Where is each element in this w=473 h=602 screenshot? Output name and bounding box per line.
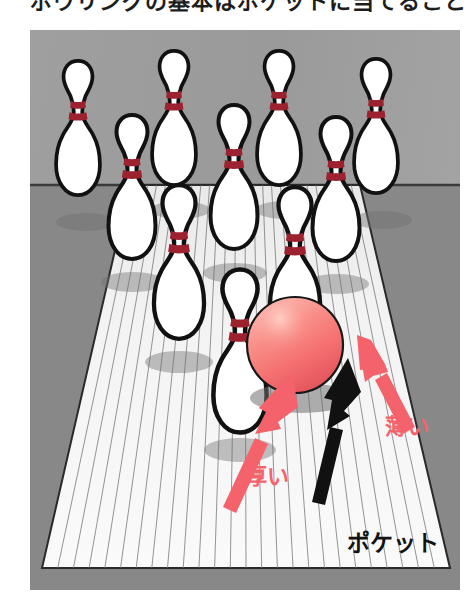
diagram-page: ボウリングの基本はポケットに当てること	[0, 0, 473, 602]
label-pocket: ポケット	[347, 524, 439, 558]
bowling-scene-svg	[30, 30, 460, 590]
clipped-caption-strip: ボウリングの基本はポケットに当てること	[0, 0, 473, 12]
ball-highlight	[248, 298, 342, 392]
bowling-illustration	[30, 30, 460, 590]
label-usui: 薄い	[385, 408, 429, 440]
bowling-ball	[247, 297, 343, 393]
caption-text: ボウリングの基本はポケットに当てること	[30, 0, 467, 12]
label-atsui: 厚い	[245, 458, 289, 490]
